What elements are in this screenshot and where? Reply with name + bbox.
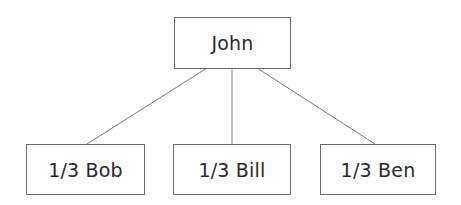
node-ben: 1/3 Ben — [320, 144, 436, 195]
node-label: John — [211, 32, 253, 54]
edge-john-bob — [87, 68, 207, 144]
node-label: 1/3 Bob — [48, 159, 123, 181]
node-label: 1/3 Bill — [198, 159, 265, 181]
node-john: John — [174, 17, 291, 69]
edge-john-ben — [257, 68, 375, 144]
node-bill: 1/3 Bill — [173, 144, 291, 195]
node-bob: 1/3 Bob — [26, 144, 145, 195]
node-label: 1/3 Ben — [341, 159, 416, 181]
